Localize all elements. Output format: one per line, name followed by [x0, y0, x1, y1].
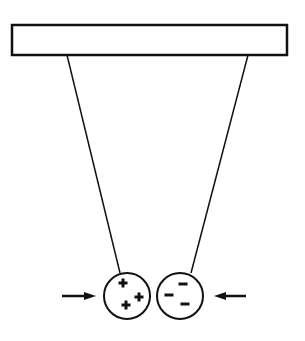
support-bar: [12, 25, 287, 55]
positive-ball: [104, 273, 150, 319]
right-arrow-icon: [214, 292, 246, 300]
plus-sign-icon: [135, 293, 144, 302]
string-2: [191, 55, 248, 273]
plus-sign-icon: [119, 279, 128, 288]
charged-balls: [104, 273, 203, 319]
force-arrows: [62, 292, 246, 300]
pith-ball-diagram: [0, 0, 305, 341]
negative-ball: [157, 273, 203, 319]
string-1: [67, 55, 120, 273]
plus-sign-icon: [122, 301, 131, 310]
left-arrow-icon: [62, 292, 96, 300]
strings: [67, 55, 248, 273]
